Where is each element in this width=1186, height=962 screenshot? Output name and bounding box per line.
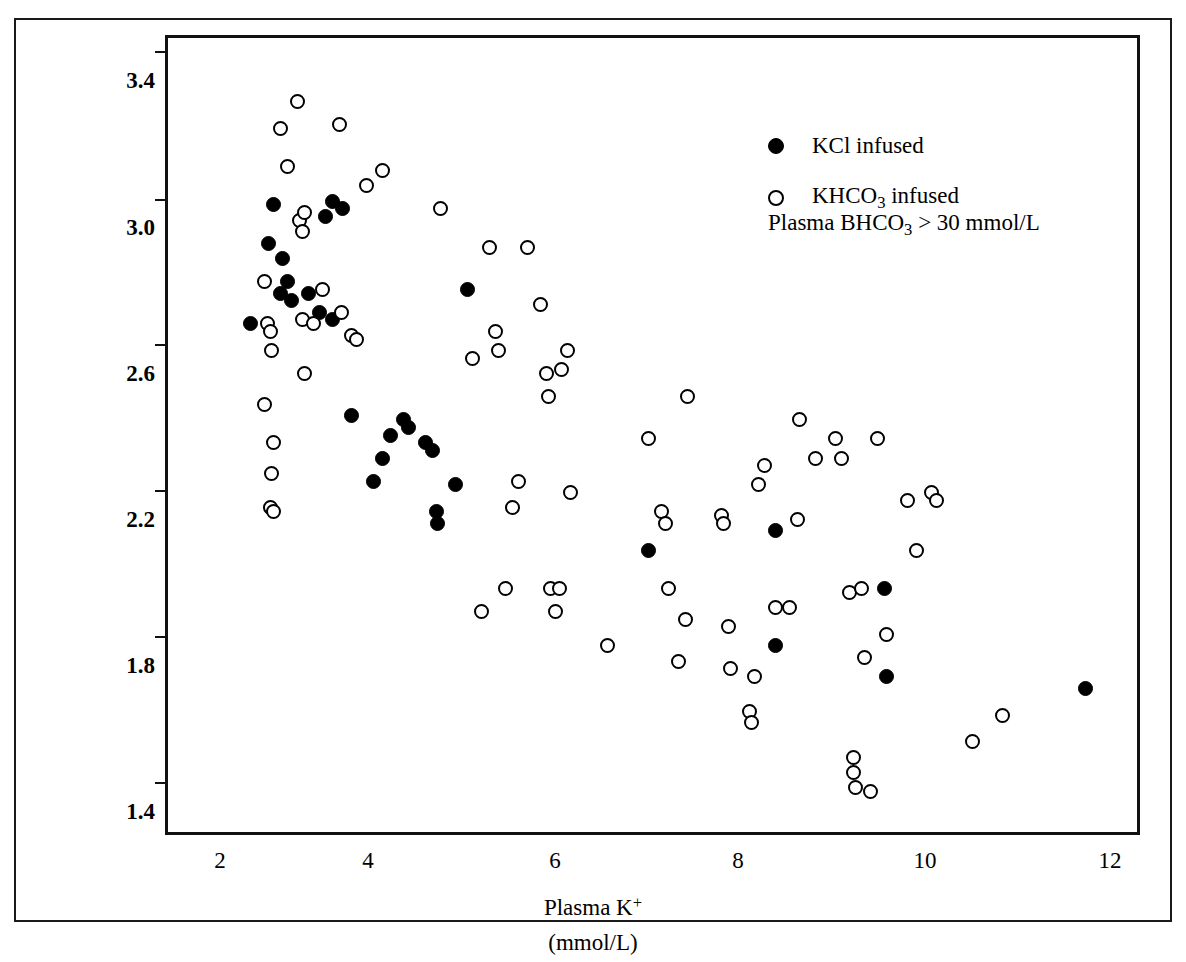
data-point-kcl	[768, 638, 783, 653]
y-axis-tick	[155, 490, 168, 492]
data-point-kcl	[448, 477, 463, 492]
data-point-kcl	[266, 197, 281, 212]
y-tick-label: 3.4	[85, 68, 155, 94]
data-point-khco3	[716, 516, 731, 531]
data-point-khco3	[792, 412, 807, 427]
data-point-khco3	[541, 389, 556, 404]
data-point-khco3	[554, 362, 569, 377]
x-tick-label: 10	[895, 848, 955, 874]
data-point-khco3	[306, 316, 321, 331]
data-point-kcl	[401, 420, 416, 435]
data-point-kcl	[430, 516, 445, 531]
data-point-khco3	[600, 638, 615, 653]
y-tick-label: 1.4	[85, 799, 155, 825]
data-point-khco3	[560, 343, 575, 358]
data-point-khco3	[658, 516, 673, 531]
data-point-khco3	[848, 780, 863, 795]
data-point-khco3	[263, 324, 278, 339]
data-point-khco3	[533, 297, 548, 312]
legend-label-kcl: KCl infused	[812, 133, 924, 159]
data-point-khco3	[747, 669, 762, 684]
legend-item-khco3: KHCO3 infused	[768, 183, 959, 213]
data-point-khco3	[297, 205, 312, 220]
y-axis-tick	[155, 344, 168, 346]
data-point-khco3	[863, 784, 878, 799]
data-point-khco3	[721, 619, 736, 634]
data-point-khco3	[264, 343, 279, 358]
data-point-khco3	[768, 600, 783, 615]
data-point-khco3	[264, 466, 279, 481]
y-axis-tick	[155, 782, 168, 784]
data-point-khco3	[870, 431, 885, 446]
data-point-khco3	[995, 708, 1010, 723]
data-point-kcl	[641, 543, 656, 558]
x-axis-units: (mmol/L)	[0, 930, 1186, 956]
data-point-khco3	[879, 627, 894, 642]
legend-item-kcl: KCl infused	[768, 133, 959, 159]
data-point-khco3	[334, 305, 349, 320]
plot-area: KCl infused KHCO3 infused Plasma BHCO3 >…	[165, 35, 1140, 835]
data-point-khco3	[511, 474, 526, 489]
x-axis-title: Plasma K+	[0, 893, 1186, 921]
data-point-khco3	[295, 224, 310, 239]
data-point-khco3	[491, 343, 506, 358]
data-point-khco3	[900, 493, 915, 508]
data-point-khco3	[266, 504, 281, 519]
data-point-khco3	[482, 240, 497, 255]
data-point-kcl	[261, 236, 276, 251]
data-point-kcl	[366, 474, 381, 489]
data-point-kcl	[877, 581, 892, 596]
y-tick-label: 2.6	[85, 361, 155, 387]
data-point-khco3	[808, 451, 823, 466]
y-tick-label: 3.0	[85, 215, 155, 241]
data-point-khco3	[723, 661, 738, 676]
data-point-khco3	[744, 715, 759, 730]
x-tick-label: 12	[1080, 848, 1140, 874]
data-point-khco3	[315, 282, 330, 297]
x-tick-label: 4	[338, 848, 398, 874]
scatter-points-layer	[168, 38, 1137, 832]
data-point-khco3	[332, 117, 347, 132]
data-point-khco3	[498, 581, 513, 596]
data-point-khco3	[257, 397, 272, 412]
legend-label-khco3: KHCO3 infused	[812, 183, 959, 213]
y-tick-label: 2.2	[85, 507, 155, 533]
open-circle-icon	[768, 190, 784, 206]
data-point-khco3	[474, 604, 489, 619]
data-point-khco3	[266, 435, 281, 450]
data-point-khco3	[757, 458, 772, 473]
data-point-kcl	[301, 286, 316, 301]
data-point-khco3	[828, 431, 843, 446]
data-point-khco3	[563, 485, 578, 500]
data-point-khco3	[539, 366, 554, 381]
data-point-kcl	[768, 523, 783, 538]
data-point-khco3	[857, 650, 872, 665]
data-point-khco3	[375, 163, 390, 178]
data-point-kcl	[383, 428, 398, 443]
data-point-khco3	[465, 351, 480, 366]
y-axis-tick	[155, 51, 168, 53]
data-point-kcl	[425, 443, 440, 458]
data-point-kcl	[284, 293, 299, 308]
data-point-khco3	[751, 477, 766, 492]
data-point-kcl	[879, 669, 894, 684]
data-point-khco3	[257, 274, 272, 289]
data-point-khco3	[782, 600, 797, 615]
data-point-khco3	[349, 332, 364, 347]
y-axis-tick	[155, 636, 168, 638]
data-point-khco3	[846, 765, 861, 780]
data-point-kcl	[375, 451, 390, 466]
data-point-khco3	[552, 581, 567, 596]
data-point-khco3	[273, 121, 288, 136]
data-point-kcl	[275, 251, 290, 266]
data-point-khco3	[661, 581, 676, 596]
data-point-khco3	[929, 493, 944, 508]
data-point-khco3	[641, 431, 656, 446]
data-point-khco3	[790, 512, 805, 527]
data-point-khco3	[520, 240, 535, 255]
data-point-khco3	[548, 604, 563, 619]
data-point-khco3	[909, 543, 924, 558]
data-point-khco3	[680, 389, 695, 404]
data-point-khco3	[280, 159, 295, 174]
data-point-kcl	[318, 209, 333, 224]
